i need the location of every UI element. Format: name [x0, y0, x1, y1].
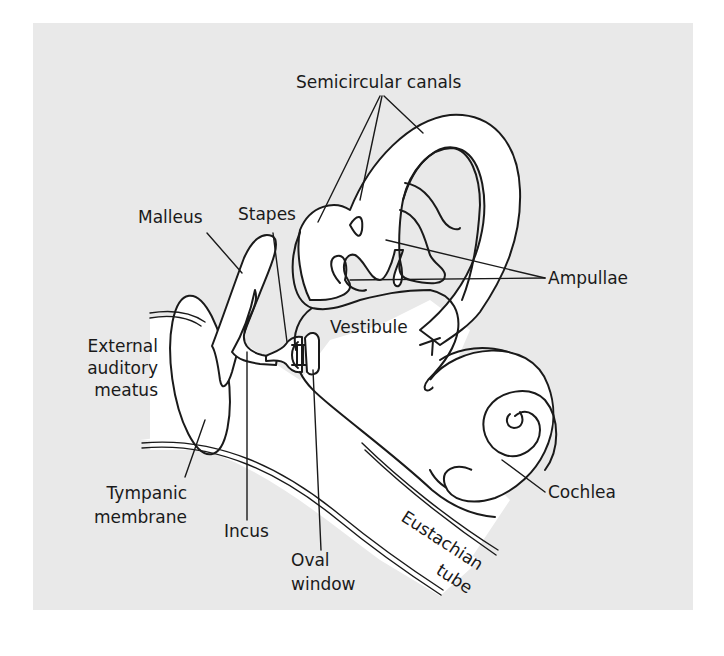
label-external-line3: meatus	[94, 380, 158, 400]
ear-anatomy-diagram: Semicircular canals Malleus Stapes Ampul…	[0, 0, 724, 656]
label-external-line2: auditory	[87, 358, 158, 378]
oval-window-shape	[305, 333, 319, 374]
label-oval-line1: Oval	[291, 550, 330, 570]
label-malleus: Malleus	[138, 207, 203, 227]
label-tympanic-line2: membrane	[94, 507, 187, 527]
label-oval-line2: window	[291, 574, 356, 594]
label-tympanic-line1: Tympanic	[106, 483, 187, 503]
label-cochlea: Cochlea	[548, 482, 616, 502]
label-stapes: Stapes	[238, 204, 296, 224]
label-semicircular-canals: Semicircular canals	[296, 72, 462, 92]
label-vestibule: Vestibule	[330, 317, 408, 337]
label-ampullae: Ampullae	[548, 268, 628, 288]
label-incus: Incus	[224, 521, 269, 541]
label-external-line1: External	[87, 336, 158, 356]
